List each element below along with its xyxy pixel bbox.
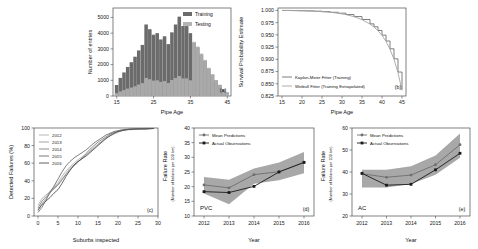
axis-tick-label: 0.950 — [261, 32, 274, 38]
panel-c-x-axis-label: Suburbs inspected — [73, 237, 119, 243]
panel-e-ac-failure-rate: 2030405060 20122013201420152016 Failure … — [316, 122, 478, 248]
panel-tag-e: (e) — [459, 206, 466, 212]
panel-d-legend: Mean Predictions Actual Observations — [199, 133, 250, 146]
panel-b-x-axis-label: Pipe Age — [331, 109, 353, 115]
histogram-bar-testing — [155, 80, 159, 96]
panel-d-y-axis-sublabel: (Number of failures per 100 km) — [170, 146, 175, 202]
histogram-bar-testing — [203, 60, 207, 96]
mean-prediction-point — [253, 173, 256, 176]
panel-c-y-axis: 020406080100 — [21, 125, 34, 219]
panel-a-x-axis: 15253545 — [114, 96, 231, 105]
panel-b-y-axis: 0.8250.8500.8750.9000.9250.9500.9751.000 — [261, 7, 278, 99]
material-label-ac: AC — [358, 205, 367, 211]
panel-e-y-axis-sublabel: (Number of failures per 100 km) — [328, 146, 333, 202]
prediction-interval-band — [204, 152, 304, 204]
axis-tick-label: 25 — [319, 99, 325, 105]
histogram-bar-testing — [159, 82, 163, 96]
axis-tick-label: 60 — [24, 160, 30, 166]
mean-prediction-point — [434, 163, 437, 166]
legend-label-2016: 2016 — [52, 161, 62, 166]
axis-tick-label: 50 — [342, 147, 348, 153]
histogram-bar-testing — [163, 81, 167, 96]
axis-tick-label: 2016 — [454, 220, 466, 226]
panel-e-x-axis-label: Year — [405, 237, 416, 243]
actual-observation-point — [410, 183, 413, 186]
legend-label-2012: 2012 — [52, 133, 62, 138]
mean-prediction-point — [410, 174, 413, 177]
axis-tick-label: 15 — [184, 198, 190, 204]
panel-c-x-axis: 051015202530 — [37, 216, 161, 226]
axis-tick-label: 35 — [359, 99, 365, 105]
panel-d-y-axis: 10152025303540 — [184, 125, 194, 219]
axis-tick-label: 2014 — [248, 220, 260, 226]
histogram-bar-testing — [174, 78, 178, 96]
axis-tick-label: 25 — [151, 99, 157, 105]
axis-tick-label: 40 — [184, 125, 190, 131]
axis-tick-label: 20 — [299, 99, 305, 105]
histogram-bar-testing — [122, 90, 126, 96]
axis-tick-label: 2012 — [356, 220, 368, 226]
panel-b-x-axis: 15202530354045 — [279, 96, 405, 105]
panel-b-survival: 0.8250.8500.8750.9000.9250.9500.9751.000… — [234, 2, 414, 118]
panel-a-bars — [115, 17, 229, 96]
histogram-bar-testing — [200, 54, 204, 96]
histogram-bar-testing — [133, 86, 137, 96]
axis-tick-label: 30 — [339, 99, 345, 105]
axis-tick-label: 0.825 — [261, 93, 274, 99]
histogram-bar-testing — [141, 83, 145, 96]
axis-tick-label: 15 — [279, 99, 285, 105]
axis-tick-label: 0.975 — [261, 20, 274, 26]
axis-tick-label: 4000 — [97, 30, 109, 36]
axis-tick-label: 35 — [184, 140, 190, 146]
actual-observation-point — [278, 171, 281, 174]
axis-tick-label: 0.875 — [261, 68, 274, 74]
axis-tick-label: 40 — [379, 99, 385, 105]
panel-a-y-axis: 010002000300040005000 — [97, 14, 113, 99]
axis-tick-label: 0.925 — [261, 44, 274, 50]
axis-tick-label: 45 — [399, 99, 405, 105]
axis-tick-label: 80 — [24, 143, 30, 149]
axis-tick-label: 60 — [342, 125, 348, 131]
histogram-bar-testing — [185, 78, 189, 96]
mean-prediction-point — [459, 143, 462, 146]
axis-tick-label: 1000 — [97, 77, 109, 83]
axis-tick-label: 2014 — [405, 220, 417, 226]
panel-a-histogram: 010002000300040005000 15253545 Number of… — [84, 2, 236, 118]
histogram-bar-testing — [166, 83, 170, 96]
panel-b-y-axis-label: Survival Probability Estimate — [238, 17, 244, 88]
legend-label-2013: 2013 — [52, 140, 62, 145]
panel-d-y-axis-label: Failure Rate — [162, 151, 168, 181]
histogram-bar-testing — [214, 80, 218, 96]
axis-tick-label: 2012 — [198, 220, 210, 226]
axis-tick-label: 25 — [135, 220, 141, 226]
axis-tick-label: 2000 — [97, 61, 109, 67]
actual-observation-point — [361, 172, 364, 175]
axis-tick-label: 5 — [57, 220, 60, 226]
histogram-bar-testing — [152, 81, 156, 96]
panel-c-legend: 20122013201420152016 — [39, 133, 62, 166]
axis-tick-label: 2015 — [430, 220, 442, 226]
histogram-bar-testing — [192, 42, 196, 96]
histogram-bar-testing — [130, 88, 134, 96]
panel-c-y-axis-label: Detected Failures (%) — [8, 145, 14, 199]
legend-label-2014: 2014 — [52, 147, 62, 152]
axis-tick-label: 10 — [75, 220, 81, 226]
axis-tick-label: 2015 — [273, 220, 285, 226]
legend-label-weibull: Weibull Fitter (Training Extrapolated) — [295, 84, 365, 89]
panel-tag-d: (d) — [303, 206, 310, 212]
axis-tick-label: 0 — [106, 93, 109, 99]
panel-a-y-axis-label: Number of entries — [87, 30, 93, 75]
axis-tick-label: 0.850 — [261, 81, 274, 87]
axis-tick-label: 2016 — [298, 220, 310, 226]
panel-tag-c: (c) — [147, 207, 153, 213]
legend-label-actual-observations: Actual Observations — [370, 141, 408, 146]
histogram-bar-testing — [148, 79, 152, 96]
actual-observation-point — [203, 190, 206, 193]
panel-tag-a: (a) — [220, 87, 227, 93]
histogram-bar-testing — [189, 80, 193, 96]
axis-tick-label: 40 — [24, 178, 30, 184]
actual-observation-point — [459, 152, 462, 155]
material-label-pvc: PVC — [200, 205, 213, 211]
legend-label-training: Training — [195, 11, 213, 17]
axis-tick-label: 10 — [184, 213, 190, 219]
